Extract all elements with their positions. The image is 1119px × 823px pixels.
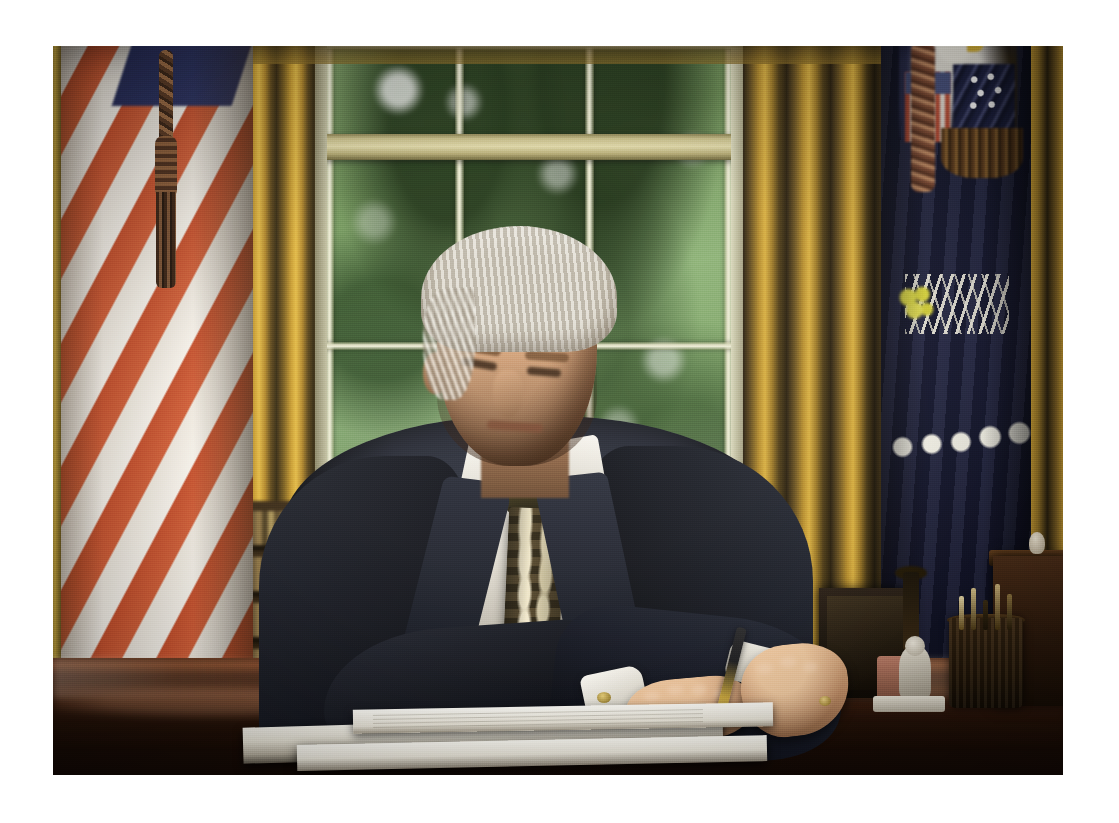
pen-in-holder xyxy=(971,588,976,630)
knuckle xyxy=(756,662,773,675)
figurine xyxy=(873,632,945,714)
page-root xyxy=(0,0,1119,823)
flag-united-states xyxy=(53,46,253,746)
pen-in-holder xyxy=(1007,594,1012,630)
hair-side xyxy=(423,288,475,400)
subject-president xyxy=(253,226,813,746)
knuckle xyxy=(802,662,818,674)
flag-shading xyxy=(53,46,253,746)
figurine-head xyxy=(905,636,925,656)
knuckle xyxy=(691,684,707,695)
pen-in-holder xyxy=(959,596,964,630)
cufflink xyxy=(597,692,611,703)
flag-pole xyxy=(53,46,61,746)
figurine-base xyxy=(873,696,945,712)
ring xyxy=(819,696,831,706)
window-meeting-rail xyxy=(325,134,733,160)
pen-in-holder xyxy=(995,584,1000,630)
knuckle xyxy=(667,684,684,695)
pen-in-holder xyxy=(983,600,988,630)
pen-holder xyxy=(949,618,1023,708)
photograph xyxy=(53,46,1063,775)
knuckle xyxy=(780,656,797,669)
nose xyxy=(493,370,523,418)
wooden-box-knob xyxy=(1029,532,1045,554)
head xyxy=(421,226,617,474)
drape-valance xyxy=(203,46,883,64)
knuckle xyxy=(643,690,660,701)
